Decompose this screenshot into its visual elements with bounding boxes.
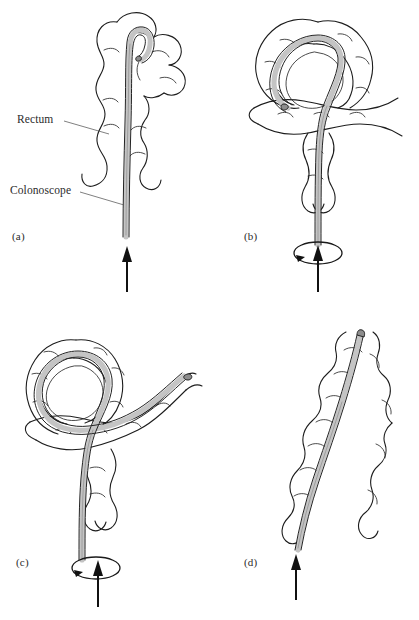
panel-b-illustration: [210, 0, 419, 300]
figure-root: Rectum Colonoscope (a): [0, 0, 419, 620]
panel-a-illustration: [0, 0, 210, 300]
panel-label-d: (d): [244, 556, 257, 568]
insertion-arrow-c: [93, 560, 103, 607]
panel-label-c: (c): [16, 556, 29, 568]
colonoscope-leader-line: [80, 192, 124, 205]
insertion-arrow-d: [291, 554, 301, 600]
rectum-label: Rectum: [17, 113, 53, 125]
colonoscope-label: Colonoscope: [10, 184, 71, 196]
insertion-arrow-b: [313, 245, 323, 292]
panel-d-illustration: [210, 310, 419, 610]
panel-label-a: (a): [12, 230, 25, 242]
panel-c-illustration: [0, 310, 210, 610]
insertion-arrow-a: [122, 246, 132, 292]
rectum-leader-line: [64, 121, 109, 134]
panel-label-b: (b): [244, 230, 257, 242]
